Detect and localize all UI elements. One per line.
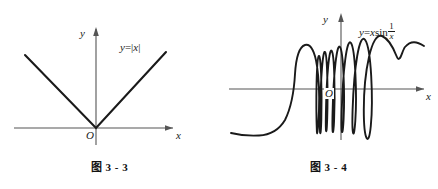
plot-svg-abs (0, 0, 219, 160)
curve-label-xsin: y=xsin1x (359, 22, 395, 42)
figure-caption: 图 3 - 4 (219, 158, 438, 174)
plot-area-abs (0, 0, 219, 160)
x-axis-label: x (176, 130, 181, 141)
origin-label: O (85, 130, 95, 141)
fraction-one-over-x: 1x (388, 22, 395, 42)
label-abs-close: | (138, 41, 140, 53)
figure-page: y x O y=|x| 图 3 - 3 (0, 0, 438, 189)
figure-3-3: y x O y=|x| 图 3 - 3 (0, 0, 219, 189)
figure-caption: 图 3 - 3 (0, 158, 219, 174)
plot-area-xsin (219, 0, 438, 160)
origin-label: O (324, 88, 334, 99)
y-axis-label: y (323, 14, 328, 25)
curve-label-abs: y=|x| (120, 42, 140, 53)
plot-svg-xsin (219, 0, 438, 160)
figure-3-4: y x O y=xsin1x 图 3 - 4 (219, 0, 438, 189)
label-sin: sin (375, 26, 388, 38)
y-axis-label: y (80, 28, 85, 39)
x-axis-label: x (426, 91, 431, 102)
fraction-denominator: x (388, 32, 395, 41)
